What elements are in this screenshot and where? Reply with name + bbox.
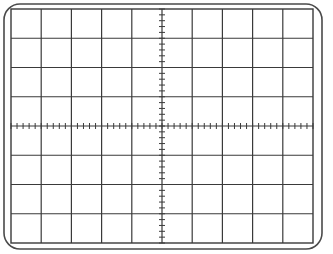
oscilloscope-graticule [0,0,333,254]
